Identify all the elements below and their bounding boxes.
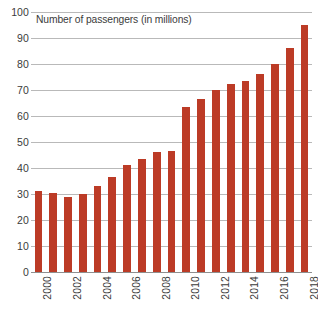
x-tick-label-2016: 2016 (279, 276, 290, 300)
x-tick-label-2000: 2000 (42, 276, 53, 300)
y-tick-label: 60 (3, 111, 29, 122)
bar-2001[interactable] (49, 193, 57, 272)
bar-2002[interactable] (64, 197, 72, 272)
bar-2005[interactable] (108, 177, 116, 272)
x-tick-label-2010: 2010 (190, 276, 201, 300)
y-tick-label: 50 (3, 137, 29, 148)
bars-layer (31, 12, 312, 272)
chart-title: Number of passengers (in millions) (36, 14, 192, 26)
y-tick-label: 30 (3, 189, 29, 200)
x-tick-label-2006: 2006 (131, 276, 142, 300)
x-tick-label-2014: 2014 (249, 276, 260, 300)
y-tick-label: 20 (3, 215, 29, 226)
bar-2013[interactable] (227, 84, 235, 273)
bar-2009[interactable] (168, 151, 176, 272)
x-axis: 2000200220042006200820102012201420162018 (31, 274, 312, 320)
bar-2018[interactable] (301, 25, 309, 272)
y-tick-label: 70 (3, 85, 29, 96)
bar-2004[interactable] (94, 186, 102, 272)
bar-2012[interactable] (212, 90, 220, 272)
x-tick-label-2012: 2012 (220, 276, 231, 300)
gridline-0 (31, 272, 312, 273)
y-axis: 0102030405060708090100 (0, 0, 29, 320)
bar-2015[interactable] (256, 74, 264, 272)
x-tick-label-2018: 2018 (309, 276, 318, 300)
bar-2007[interactable] (138, 159, 146, 272)
y-tick-label: 90 (3, 33, 29, 44)
y-tick-label: 0 (3, 267, 29, 278)
y-tick-label: 100 (3, 7, 29, 18)
bar-2016[interactable] (271, 64, 279, 272)
x-tick-label-2008: 2008 (161, 276, 172, 300)
bar-2010[interactable] (182, 107, 190, 272)
bar-2000[interactable] (35, 191, 43, 272)
bar-2008[interactable] (153, 152, 161, 272)
bar-chart: 0102030405060708090100 Number of passeng… (0, 0, 318, 320)
bar-2017[interactable] (286, 48, 294, 272)
y-tick-label: 40 (3, 163, 29, 174)
bar-2006[interactable] (123, 165, 131, 272)
y-tick-label: 80 (3, 59, 29, 70)
x-tick-label-2002: 2002 (72, 276, 83, 300)
y-tick-label: 10 (3, 241, 29, 252)
bar-2014[interactable] (242, 81, 250, 272)
x-tick-label-2004: 2004 (102, 276, 113, 300)
bar-2011[interactable] (197, 99, 205, 272)
bar-2003[interactable] (79, 194, 87, 272)
